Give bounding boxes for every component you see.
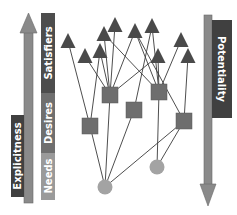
satisfier-triangle-T9 xyxy=(174,32,189,47)
needs-label: Needs xyxy=(43,158,54,193)
satisfier-triangle-T7 xyxy=(145,18,160,33)
satisfier-triangle-T6 xyxy=(128,23,143,38)
explicitness-arrow-shaft xyxy=(24,32,33,203)
explicitness-label-box: Explicitness xyxy=(11,115,24,197)
satisfier-triangle-T8 xyxy=(151,48,166,63)
edge-S1-C1 xyxy=(105,95,110,187)
desire-square-S5 xyxy=(176,113,192,129)
edge-S5-C1 xyxy=(105,121,184,187)
potentiality-arrow-shaft xyxy=(204,15,212,185)
satisfier-triangle-T1 xyxy=(61,33,76,48)
explicitness-arrow-head xyxy=(20,13,37,33)
desire-square-S1 xyxy=(102,87,118,103)
level-bar: Satisfiers Desires Needs xyxy=(41,13,55,200)
needs-desires-satisfiers-diagram: Explicitness Satisfiers Desires Needs Po… xyxy=(0,0,237,215)
edge-T4-S1 xyxy=(104,34,110,95)
explicitness-label: Explicitness xyxy=(12,122,23,189)
satisfiers-label: Satisfiers xyxy=(43,26,54,79)
satisfier-triangle-T10 xyxy=(181,48,196,63)
potentiality-arrow-head xyxy=(200,184,216,206)
desires-label: Desires xyxy=(43,102,54,144)
potentiality-label: Potentiality xyxy=(216,36,227,102)
potentiality-label-box: Potentiality xyxy=(212,20,232,118)
edge-S4-C1 xyxy=(90,126,105,187)
desire-square-S3 xyxy=(126,102,142,118)
satisfier-triangle-T5 xyxy=(108,17,123,32)
desire-square-S4 xyxy=(82,118,98,134)
desire-square-S2 xyxy=(151,84,167,100)
edge-S2-C2 xyxy=(157,92,159,167)
edge-T10-S5 xyxy=(184,56,188,121)
need-circle-C1 xyxy=(98,180,113,195)
need-circle-C2 xyxy=(150,160,165,175)
satisfier-triangle-T2 xyxy=(78,48,93,63)
satisfier-triangle-T4 xyxy=(97,26,112,41)
